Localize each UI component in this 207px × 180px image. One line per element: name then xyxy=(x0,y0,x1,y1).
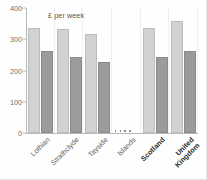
x-axis-label-tayside: Tayside xyxy=(86,136,109,159)
no-data-dot xyxy=(129,130,131,132)
x-axis-label-strathclyde: Strathclyde xyxy=(50,136,81,167)
y-axis-tick-label: 200 xyxy=(10,66,22,75)
bar-series-1 xyxy=(85,34,97,133)
y-axis-tick-mark xyxy=(22,8,26,9)
x-axis-label-line: Islands xyxy=(116,135,138,157)
y-axis-tick-label: 300 xyxy=(10,35,22,44)
bar-series-2 xyxy=(98,62,110,133)
plot-area xyxy=(26,8,198,133)
y-axis-tick-label: 400 xyxy=(10,4,22,13)
no-data-marker xyxy=(115,130,131,132)
x-axis-label-scotland: Scotland xyxy=(140,136,167,163)
y-axis-tick-labels: 0100200300400 xyxy=(0,0,22,180)
y-axis-tick-mark xyxy=(22,39,26,40)
bar-group xyxy=(85,8,110,133)
bar-series-2 xyxy=(70,57,82,133)
x-axis-label-line: Lothian xyxy=(29,135,52,158)
bar-series-1 xyxy=(143,28,155,133)
bar-series-2 xyxy=(184,51,196,133)
x-axis-label-line: Tayside xyxy=(86,135,110,159)
bar-chart: 0100200300400 £ per week LothianStrathcl… xyxy=(0,0,207,180)
x-axis-label-line: Scotland xyxy=(139,135,167,163)
bar-series-1 xyxy=(28,28,40,133)
bar-series-2 xyxy=(156,57,168,133)
bar-group xyxy=(171,8,196,133)
x-axis-label-islands: Islands xyxy=(116,136,138,158)
x-axis-label-lothian: Lothian xyxy=(30,136,53,159)
y-axis-tick-mark xyxy=(22,70,26,71)
no-data-dot xyxy=(120,130,122,132)
no-data-dot xyxy=(124,130,126,132)
y-axis-tick-label: 100 xyxy=(10,97,22,106)
bar-series-1 xyxy=(57,29,69,133)
x-axis-line xyxy=(26,133,198,134)
bar-series-2 xyxy=(41,51,53,133)
y-axis-tick-mark xyxy=(22,133,26,134)
bar-series-1 xyxy=(171,21,183,134)
bar-group xyxy=(28,8,53,133)
bar-group xyxy=(114,8,139,133)
units-annotation: £ per week xyxy=(48,11,84,20)
x-axis-label-united-kingdom: UnitedKingdom xyxy=(168,136,202,170)
no-data-dot xyxy=(115,130,117,132)
bar-group xyxy=(57,8,82,133)
y-axis-tick-mark xyxy=(22,101,26,102)
bar-group xyxy=(143,8,168,133)
x-axis-label-line: Strathclyde xyxy=(49,135,81,167)
